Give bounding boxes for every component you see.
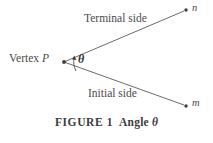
figure-caption-text: Angle	[119, 116, 149, 128]
vertex-point-marker	[62, 60, 66, 64]
figure-angle-theta: Terminal side Initial side Vertex P θ n …	[0, 0, 213, 143]
figure-caption-number: FIGURE 1	[55, 116, 113, 128]
angle-theta-label: θ	[78, 53, 84, 65]
angle-arc-arrowhead	[72, 55, 76, 60]
ray-m-label: m	[192, 98, 200, 109]
ray-n-point-marker	[184, 8, 187, 11]
figure-caption-symbol: θ	[152, 116, 158, 128]
vertex-label-point: P	[42, 52, 49, 64]
figure-caption: FIGURE 1Angle θ	[0, 116, 213, 128]
initial-side-label: Initial side	[88, 88, 137, 100]
vertex-label: Vertex P	[9, 53, 49, 65]
terminal-side-label: Terminal side	[84, 13, 147, 25]
vertex-label-prefix: Vertex	[9, 52, 39, 64]
ray-n-label: n	[192, 3, 197, 14]
ray-m-point-marker	[184, 104, 187, 107]
